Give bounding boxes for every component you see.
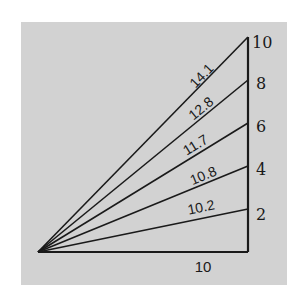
right-triangle-fan-diagram: 10 8 6 4 2 10 14.1 12.8 11.7 10.8 10.2 [0,0,297,301]
base-length-label: 10 [195,258,212,275]
tick-label-8: 8 [256,74,266,93]
tick-label-10: 10 [252,33,272,52]
tick-label-6: 6 [256,117,266,136]
tick-label-4: 4 [256,160,266,179]
tick-label-2: 2 [256,205,266,224]
